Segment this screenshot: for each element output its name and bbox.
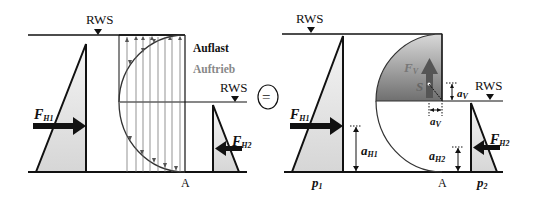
rws-label-left-right: RWS: [220, 80, 247, 95]
p1-label: p1: [311, 175, 323, 191]
force-h1-label: FH1: [33, 107, 54, 123]
legend-auftrieb: Auftrieb: [193, 63, 235, 75]
p2-label: p2: [476, 175, 488, 191]
diagram-canvas: RWS RWS FH1: [0, 0, 535, 198]
equals-symbol: =: [258, 85, 278, 109]
centroid-s-label: S: [416, 79, 423, 94]
a-h1-label: aH1: [361, 143, 378, 159]
left-panel: RWS RWS FH1: [28, 12, 252, 190]
water-level-icon: [94, 29, 102, 35]
svg-text:=: =: [262, 89, 270, 105]
point-a-left: A: [181, 176, 190, 190]
semicircle-gate: [119, 35, 185, 172]
point-a-right: A: [438, 176, 447, 190]
force-h2-label: FH2: [489, 132, 510, 148]
water-level-icon: [307, 27, 315, 33]
rws-label-right-top: RWS: [296, 11, 323, 26]
force-h2-label: FH2: [231, 134, 252, 150]
rws-label-left-top: RWS: [86, 12, 113, 27]
water-level-icon: [486, 94, 494, 100]
pressure-triangle-h1: [292, 36, 343, 172]
load-arrows: [127, 37, 180, 172]
right-panel: RWS RWS FH1 aH1 FV S aV aV: [282, 11, 510, 191]
a-h2-label: aH2: [429, 149, 445, 164]
water-level-icon: [231, 96, 239, 102]
rws-label-right-right: RWS: [475, 78, 502, 93]
a-v-horizontal-label: aV: [430, 115, 442, 129]
pressure-triangle-h1: [36, 44, 86, 172]
legend-auflast: Auflast: [193, 42, 229, 54]
force-h1-label: FH1: [289, 107, 310, 123]
a-v-vertical-label: aV: [457, 87, 469, 101]
